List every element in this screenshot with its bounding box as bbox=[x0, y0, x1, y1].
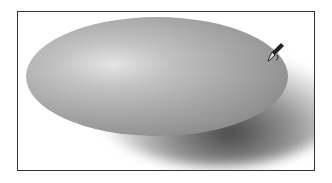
gradient-ellipse[interactable] bbox=[26, 17, 288, 136]
canvas-frame[interactable] bbox=[17, 11, 315, 171]
eyedropper-icon bbox=[266, 41, 286, 63]
